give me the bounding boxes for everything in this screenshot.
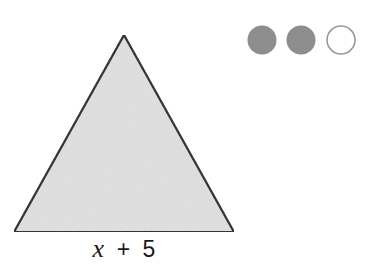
base-label-operator: + — [117, 236, 130, 262]
triangle-figure: x + 5 — [0, 0, 365, 270]
difficulty-indicator — [248, 26, 356, 55]
triangle-shape — [14, 35, 234, 232]
filled-circle-icon — [287, 26, 316, 55]
empty-circle-icon — [327, 26, 355, 54]
base-label-constant: 5 — [143, 236, 156, 262]
base-label: x + 5 — [92, 234, 156, 263]
filled-circle-icon — [248, 26, 277, 55]
base-label-variable: x — [92, 234, 105, 263]
